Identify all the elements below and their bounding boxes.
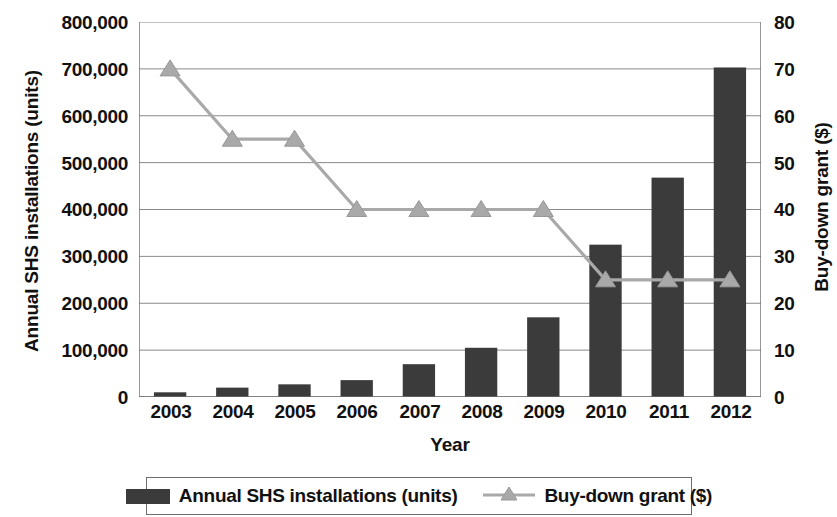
x-axis-title: Year [139,434,761,456]
y-left-tick-800000: 800,000 [8,13,128,32]
y-right-tick-50: 50 [774,154,837,173]
y-right-tick-0: 0 [774,388,837,407]
legend-label-grant: Buy-down grant ($) [544,485,712,507]
bar-2008 [465,348,497,397]
chart-legend: Annual SHS installations (units) Buy-dow… [146,477,692,515]
y-right-tick-30: 30 [774,247,837,266]
bar-2009 [527,317,559,397]
legend-item-line: Buy-down grant ($) [483,485,712,507]
plot-area [139,22,761,397]
y-left-tick-600000: 600,000 [8,107,128,126]
y-right-tick-10: 10 [774,341,837,360]
y-left-tick-500000: 500,000 [8,154,128,173]
bar-2003 [154,392,186,397]
bar-2007 [403,364,435,397]
y-left-tick-700000: 700,000 [8,60,128,79]
y-left-tick-200000: 200,000 [8,294,128,313]
y-left-tick-400000: 400,000 [8,200,128,219]
bar-2005 [278,384,310,397]
legend-label-installations: Annual SHS installations (units) [179,485,458,507]
combo-chart-figure: Annual SHS installations (units) Buy-dow… [0,0,837,517]
y-right-tick-40: 40 [774,200,837,219]
y-right-tick-80: 80 [774,13,837,32]
y-right-tick-70: 70 [774,60,837,79]
legend-bar-swatch-icon [126,489,170,504]
legend-line-triangle-icon [483,485,535,507]
y-left-tick-100000: 100,000 [8,341,128,360]
y-left-tick-0: 0 [8,388,128,407]
bar-2006 [341,380,373,397]
plot-svg [139,22,761,397]
grant-marker-2003 [160,60,180,76]
bar-2004 [216,388,248,397]
x-tick-2012: 2012 [691,402,771,421]
y-left-tick-300000: 300,000 [8,247,128,266]
y-right-tick-20: 20 [774,294,837,313]
grant-line [170,69,730,280]
y-right-tick-60: 60 [774,107,837,126]
bars-group [154,67,746,397]
bar-2012 [714,67,746,397]
legend-item-bar: Annual SHS installations (units) [126,485,458,507]
